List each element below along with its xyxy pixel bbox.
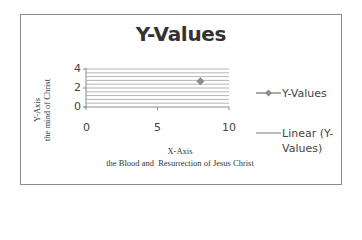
x-tick-label: 0 [83, 121, 90, 134]
x-axis-title-line1: X-Axis [60, 145, 300, 157]
legend-label: Y-Values [282, 86, 327, 101]
y-axis-title-line2: the mind of Christ [42, 79, 52, 141]
y-axis-title-line1: Y-Axis [32, 79, 42, 141]
x-axis-title-line2: the Blood and Resurrection of Jesus Chri… [60, 157, 300, 169]
y-tick-label: 0 [74, 100, 81, 113]
x-axis-title: X-Axis the Blood and Resurrection of Jes… [60, 145, 300, 169]
y-tick-label: 2 [74, 81, 81, 94]
legend-label-line1: Linear (Y- [282, 126, 333, 141]
legend-diamond-icon [265, 90, 272, 97]
y-axis-title: Y-Axis the mind of Christ [27, 60, 57, 160]
x-tick-label: 10 [222, 121, 236, 134]
gridlines [86, 69, 229, 103]
legend-item-y-values: Y-Values [282, 86, 327, 101]
legend-item-linear: Linear (Y- Values) [282, 126, 333, 156]
x-tick-label: 5 [154, 121, 161, 134]
y-tick-label: 4 [74, 62, 81, 75]
legend-label-line2: Values) [282, 141, 322, 156]
